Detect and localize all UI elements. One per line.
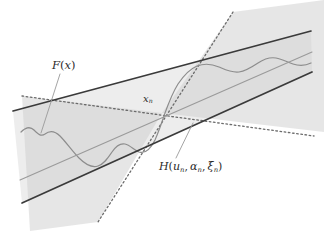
label-h-u: u	[173, 160, 180, 173]
label-halfspace: H(un, αn, ξn)	[159, 161, 222, 173]
label-h-main: H	[159, 160, 169, 173]
label-function-curve: F(x)	[52, 60, 75, 72]
label-h-paren-close: )	[218, 160, 222, 173]
label-fx-paren-close: )	[71, 58, 76, 72]
figure-canvas: F(x) xn H(un, αn, ξn)	[0, 0, 324, 231]
label-fx-main: F	[52, 58, 60, 72]
label-h-alpha: α	[190, 160, 197, 173]
label-xn-sub: n	[149, 97, 153, 104]
label-point-xn: xn	[143, 94, 153, 105]
label-h-comma-1: ,	[184, 160, 188, 173]
diagram-svg	[0, 0, 324, 231]
label-h-comma-2: ,	[202, 160, 206, 173]
